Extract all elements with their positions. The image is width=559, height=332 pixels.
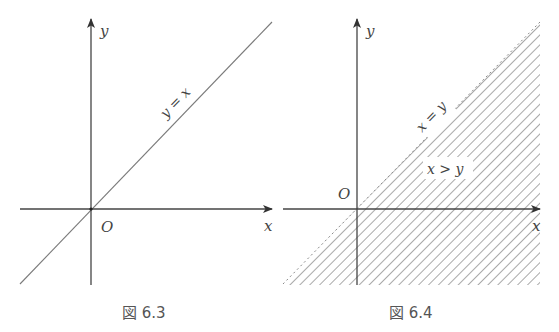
line-y-equals-x — [20, 22, 272, 284]
x-axis-label: x — [264, 217, 273, 235]
caption-6-3: 図 6.3 — [122, 304, 166, 322]
line-label: y = x — [156, 84, 194, 122]
region-label: x > y — [427, 161, 465, 177]
caption-6-4: 図 6.4 — [389, 304, 433, 322]
hatched-region-x-gt-y — [283, 20, 543, 286]
y-axis-label: y — [365, 22, 375, 40]
figures-canvas: y O x y = x 図 6.3 y O x x = y x > y — [0, 0, 559, 332]
origin-point — [89, 207, 92, 210]
figures-container: y O x y = x 図 6.3 y O x x = y x > y — [0, 0, 559, 332]
y-axis-label: y — [99, 22, 109, 40]
figure-6-3: y O x y = x 図 6.3 — [20, 19, 273, 322]
x-axis-label: x — [532, 217, 541, 235]
figure-6-4: y O x x = y x > y 図 6.4 — [283, 19, 543, 322]
origin-label: O — [101, 218, 113, 236]
origin-label: O — [338, 185, 350, 203]
